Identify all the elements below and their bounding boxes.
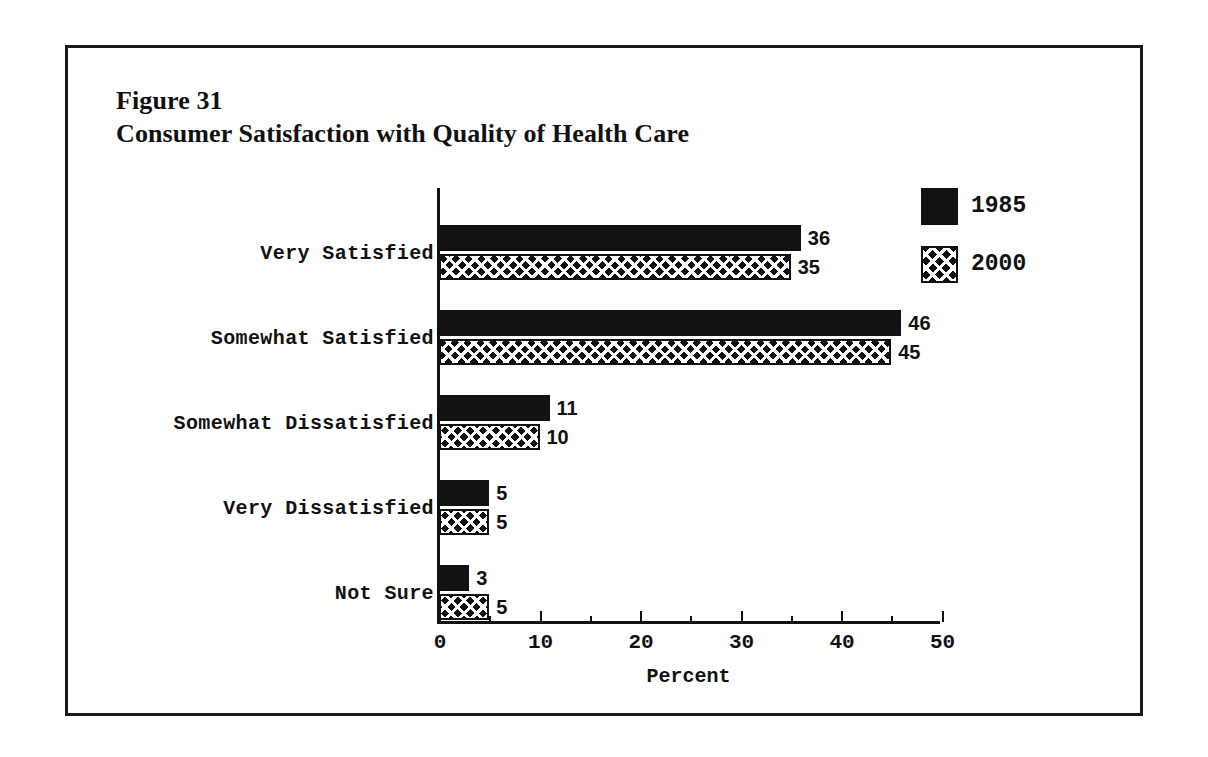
x-tick-label-40: 40 xyxy=(829,631,854,654)
bar-1985-very-satisfied xyxy=(439,225,801,251)
x-tick-minor-25 xyxy=(690,616,692,622)
legend-label-1985: 1985 xyxy=(971,193,1026,219)
category-label-3: Very Dissatisfied xyxy=(223,496,434,519)
x-axis-title: Percent xyxy=(437,665,940,688)
x-tick-minor-5 xyxy=(489,616,491,622)
x-tick-label-50: 50 xyxy=(930,631,955,654)
bar-2000-very-satisfied xyxy=(439,254,791,280)
bar-value-1985-somewhat-satisfied: 46 xyxy=(908,312,930,335)
bar-2000-somewhat-dissatisfied xyxy=(439,424,540,450)
legend-swatch-1985 xyxy=(921,188,958,225)
x-tick-label-30: 30 xyxy=(729,631,754,654)
bar-value-2000-not-sure: 5 xyxy=(496,596,507,619)
bar-value-2000-very-dissatisfied: 5 xyxy=(496,511,507,534)
bar-1985-somewhat-satisfied xyxy=(439,310,901,336)
legend-swatch-2000 xyxy=(921,246,958,283)
legend-label-2000: 2000 xyxy=(971,251,1026,277)
bar-value-2000-very-satisfied: 35 xyxy=(798,256,820,279)
x-tick-label-10: 10 xyxy=(528,631,553,654)
bar-1985-not-sure xyxy=(439,565,469,591)
bar-value-2000-somewhat-dissatisfied: 10 xyxy=(547,426,569,449)
bar-value-1985-very-dissatisfied: 5 xyxy=(496,482,507,505)
bar-2000-very-dissatisfied xyxy=(439,509,489,535)
x-tick-major-30 xyxy=(741,611,743,622)
bar-value-2000-somewhat-satisfied: 45 xyxy=(898,341,920,364)
x-tick-major-10 xyxy=(540,611,542,622)
bar-1985-very-dissatisfied xyxy=(439,480,489,506)
bar-1985-somewhat-dissatisfied xyxy=(439,395,550,421)
bar-2000-somewhat-satisfied xyxy=(439,339,891,365)
x-tick-minor-15 xyxy=(590,616,592,622)
x-tick-minor-45 xyxy=(891,616,893,622)
category-label-1: Somewhat Satisfied xyxy=(211,326,434,349)
x-tick-major-50 xyxy=(942,611,944,622)
x-tick-major-40 xyxy=(841,611,843,622)
x-tick-label-0: 0 xyxy=(434,631,447,654)
x-tick-label-20: 20 xyxy=(628,631,653,654)
bar-2000-not-sure xyxy=(439,594,489,620)
category-label-2: Somewhat Dissatisfied xyxy=(174,411,434,434)
chart-plot-area: 01020304050 Percent Very SatisfiedSomewh… xyxy=(68,48,1146,719)
bar-value-1985-not-sure: 3 xyxy=(476,567,487,590)
figure-frame: Figure 31 Consumer Satisfaction with Qua… xyxy=(65,45,1143,716)
category-label-0: Very Satisfied xyxy=(260,241,434,264)
bar-value-1985-very-satisfied: 36 xyxy=(808,227,830,250)
bar-value-1985-somewhat-dissatisfied: 11 xyxy=(557,397,578,420)
figure-page: Figure 31 Consumer Satisfaction with Qua… xyxy=(0,0,1208,757)
category-label-4: Not Sure xyxy=(335,581,434,604)
x-axis-line xyxy=(437,621,940,624)
x-tick-minor-35 xyxy=(791,616,793,622)
x-tick-major-20 xyxy=(640,611,642,622)
